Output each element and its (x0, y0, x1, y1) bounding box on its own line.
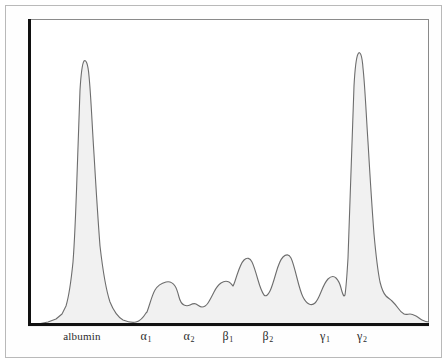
axis-label-gamma-2-sub: 2 (362, 335, 367, 344)
axis-label-alpha-2: α2 (183, 330, 194, 344)
axis-label-alpha-1-greek: α (140, 329, 147, 343)
electrophoresis-figure: albumin α1 α2 β1 β2 γ1 γ2 (0, 0, 448, 364)
axis-label-gamma-1: γ1 (320, 330, 330, 344)
axis-label-gamma-1-sub: 1 (325, 335, 330, 344)
trace-fill-area (28, 53, 429, 327)
axis-label-albumin: albumin (63, 330, 100, 343)
axis-label-alpha-1-sub: 1 (147, 335, 152, 344)
axis-label-beta-2-sub: 2 (269, 335, 274, 344)
axis-label-alpha-2-sub: 2 (190, 335, 195, 344)
axis-label-alpha-1: α1 (140, 330, 151, 344)
axis-label-alpha-2-greek: α (183, 329, 190, 343)
axis-label-albumin-text: albumin (63, 330, 100, 342)
x-axis-baseline (28, 323, 429, 326)
y-axis-line (28, 19, 31, 326)
densitometry-trace-svg (28, 20, 429, 327)
axis-label-beta-1-sub: 1 (229, 335, 234, 344)
axis-label-gamma-2: γ2 (357, 330, 367, 344)
axis-label-gamma-1-greek: γ (320, 329, 326, 343)
axis-label-beta-2: β2 (262, 330, 273, 344)
plot-panel (28, 19, 429, 326)
axis-label-gamma-2-greek: γ (357, 329, 363, 343)
axis-label-beta-1: β1 (222, 330, 233, 344)
